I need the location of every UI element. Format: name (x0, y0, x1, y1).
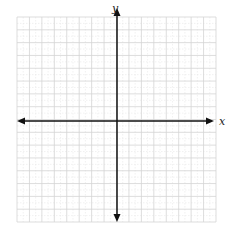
arrow-left-icon (17, 118, 25, 125)
coordinate-plane: x y (0, 0, 233, 235)
axes (17, 8, 214, 222)
arrow-down-icon (114, 214, 121, 222)
x-axis-label: x (219, 115, 226, 128)
y-axis-label: y (111, 2, 119, 15)
